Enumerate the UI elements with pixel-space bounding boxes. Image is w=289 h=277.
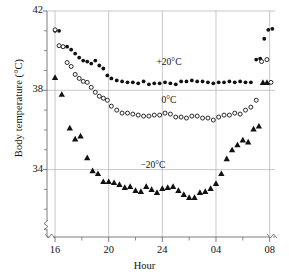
data-point xyxy=(195,79,199,83)
y-axis-tick-label: 34 xyxy=(22,163,43,174)
data-point xyxy=(120,79,124,83)
data-point xyxy=(186,194,192,200)
data-point xyxy=(89,85,93,89)
data-point xyxy=(269,80,273,84)
data-point xyxy=(163,80,167,84)
data-point xyxy=(249,80,253,84)
data-point xyxy=(191,194,197,200)
data-point xyxy=(175,187,181,193)
data-point xyxy=(206,116,210,120)
data-point xyxy=(72,136,78,142)
data-point xyxy=(136,113,140,117)
data-point xyxy=(126,80,130,84)
data-point xyxy=(262,37,266,41)
data-point xyxy=(222,80,226,84)
data-point xyxy=(227,113,231,117)
data-point xyxy=(224,156,230,162)
series-annotation-mid: 0°C xyxy=(143,95,195,105)
data-point xyxy=(85,60,89,64)
data-point xyxy=(125,111,129,115)
x-axis-tick-label: 20 xyxy=(95,244,123,255)
data-point xyxy=(158,81,162,85)
data-point xyxy=(84,155,90,161)
data-point xyxy=(89,62,93,66)
data-point xyxy=(97,64,101,68)
data-point xyxy=(207,185,213,191)
data-point xyxy=(270,27,274,31)
data-point xyxy=(142,79,146,83)
data-point xyxy=(159,185,165,191)
data-point xyxy=(132,187,138,193)
data-point xyxy=(138,188,144,194)
data-point xyxy=(77,76,81,80)
data-point xyxy=(195,114,199,118)
x-axis-label: Hour xyxy=(0,260,289,271)
data-point xyxy=(197,189,203,195)
data-point xyxy=(152,113,156,117)
data-point xyxy=(81,59,85,63)
data-point xyxy=(77,133,83,139)
chart-plot-area xyxy=(0,0,289,277)
x-axis-tick-label: 04 xyxy=(202,244,230,255)
data-point xyxy=(109,104,113,108)
data-point xyxy=(250,126,256,132)
data-point xyxy=(211,81,215,85)
data-point xyxy=(106,178,112,184)
data-point xyxy=(101,67,105,71)
data-point xyxy=(229,147,235,153)
data-point xyxy=(136,81,140,85)
data-point xyxy=(85,80,89,84)
data-point xyxy=(240,137,246,143)
data-point xyxy=(109,77,113,81)
data-point xyxy=(105,98,109,102)
data-point xyxy=(81,79,85,83)
data-point xyxy=(67,125,73,131)
data-point xyxy=(120,111,124,115)
data-point xyxy=(147,82,151,86)
data-point xyxy=(57,44,61,48)
data-point xyxy=(65,61,69,65)
data-point xyxy=(217,115,221,119)
x-axis-tick-label: 08 xyxy=(256,244,284,255)
data-point xyxy=(238,112,242,116)
series-mid xyxy=(53,28,273,122)
data-point xyxy=(95,170,101,176)
data-point xyxy=(233,111,237,115)
data-point xyxy=(218,170,224,176)
data-point xyxy=(143,183,149,189)
data-point xyxy=(100,178,106,184)
data-point xyxy=(152,81,156,85)
data-point xyxy=(201,116,205,120)
data-point xyxy=(69,65,73,69)
data-point xyxy=(213,180,219,186)
data-point xyxy=(222,113,226,117)
data-point xyxy=(170,183,176,189)
data-point xyxy=(185,79,189,83)
data-point xyxy=(165,184,171,190)
data-point xyxy=(256,123,262,129)
data-point xyxy=(238,79,242,83)
data-point xyxy=(73,52,77,56)
data-point xyxy=(265,58,269,62)
data-point xyxy=(131,80,135,84)
data-point xyxy=(202,188,208,194)
series-annotation-warm: +20°C xyxy=(143,57,195,67)
series-annotation-cold: −20°C xyxy=(127,160,179,170)
data-point xyxy=(243,108,247,112)
data-point xyxy=(52,74,58,80)
data-point xyxy=(174,82,178,86)
data-point xyxy=(168,112,172,116)
data-point xyxy=(206,80,210,84)
data-point xyxy=(266,28,270,32)
data-point xyxy=(181,191,187,197)
data-point xyxy=(93,59,97,63)
data-point xyxy=(93,90,97,94)
data-point xyxy=(254,98,258,102)
data-point xyxy=(69,48,73,52)
x-axis-tick-label: 16 xyxy=(41,244,69,255)
data-point xyxy=(142,114,146,118)
y-axis-tick-label: 42 xyxy=(22,4,43,15)
data-point xyxy=(190,114,194,118)
data-point xyxy=(233,80,237,84)
data-point xyxy=(65,45,69,49)
